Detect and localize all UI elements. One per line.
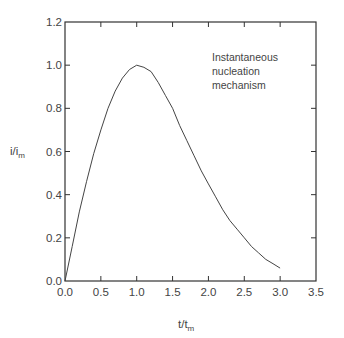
- x-tick-label: 1.5: [165, 286, 181, 298]
- x-tick-label: 2.0: [200, 286, 216, 298]
- annotation-line-1: Instantaneous: [212, 51, 278, 63]
- x-tick-label: 2.5: [236, 286, 252, 298]
- annotation-text: Instantaneous nucleation mechanism: [212, 51, 281, 91]
- x-axis-ticks: 0.00.51.01.52.02.53.03.5: [57, 276, 324, 298]
- annotation-line-2: nucleation: [212, 65, 260, 77]
- y-tick-label: 0.2: [46, 232, 62, 244]
- x-tick-label: 3.0: [272, 286, 288, 298]
- x-tick-label: 0.5: [93, 286, 109, 298]
- y-axis-ticks: 0.00.20.40.60.81.01.2: [46, 16, 70, 287]
- y-axis-label: i/im: [10, 145, 25, 160]
- x-tick-label: 1.0: [129, 286, 145, 298]
- y-tick-label: 0.8: [46, 102, 62, 114]
- y-tick-label: 1.2: [46, 16, 62, 28]
- x-tick-label: 3.5: [308, 286, 324, 298]
- data-curve: [65, 65, 280, 281]
- y-tick-label: 0.6: [46, 146, 62, 158]
- y-tick-label: 1.0: [46, 59, 62, 71]
- annotation-line-3: mechanism: [212, 79, 266, 91]
- chart: 0.00.51.01.52.02.53.03.5 0.00.20.40.60.8…: [0, 0, 344, 338]
- x-tick-label: 0.0: [57, 286, 73, 298]
- y-tick-label: 0.4: [46, 189, 63, 201]
- top-axis-ticks: [101, 22, 280, 27]
- right-axis-ticks: [311, 65, 316, 238]
- x-axis-label: t/tm: [178, 318, 195, 333]
- y-tick-label: 0.0: [46, 275, 62, 287]
